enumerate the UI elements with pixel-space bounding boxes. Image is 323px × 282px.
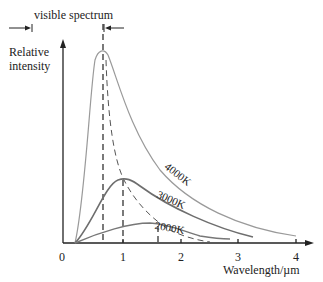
x-axis-arrow-icon [305,240,314,246]
curve-4000k [75,51,296,243]
visible-spectrum-label: visible spectrum [34,8,113,23]
blackbody-chart [0,0,323,282]
y-axis-arrow-icon [60,39,66,48]
y-axis-label-line1: Relative [9,45,49,60]
x-tick-label-1: 1 [120,250,126,265]
x-axis-label: Wavelength/µm [223,263,300,278]
x-tick-label-0: 0 [59,250,65,265]
y-axis-label-line2: intensity [9,59,50,74]
wien-curve [106,60,210,242]
curve-2000k [75,223,230,243]
arrow-right-icon [25,26,31,31]
x-tick-label-2: 2 [178,250,184,265]
